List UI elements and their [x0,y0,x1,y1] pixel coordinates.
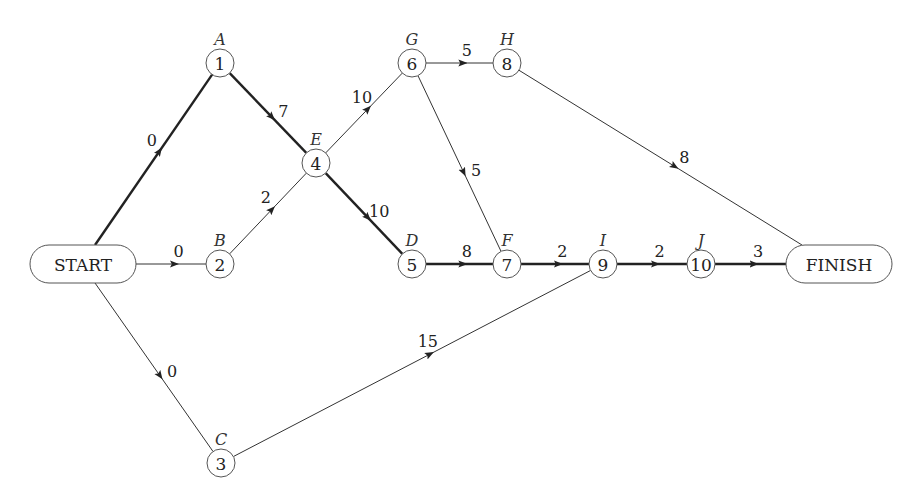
node-5: 5D [398,231,426,278]
edge-weight-label: 10 [352,88,372,107]
node-6: 6G [398,30,426,77]
edge-weight-label: 7 [278,102,288,121]
edge-weight-label: 2 [654,242,664,261]
node-1: 1A [206,30,234,77]
node-number: 10 [690,255,712,275]
edge-start-2: 0 [136,242,206,264]
start-terminal: START [30,245,136,283]
edge-weight-label: 8 [462,242,472,261]
edge-4-5: 10 [326,173,403,254]
edge-10-finish: 3 [715,242,786,264]
edge-5-7: 8 [426,242,493,264]
node-number: 7 [502,255,513,275]
edge-weight-label: 8 [679,148,689,167]
edge-weight-label: 5 [462,41,472,60]
edge-7-9: 2 [521,242,589,264]
edge-weight-label: 5 [471,161,481,180]
edge-weight-label: 0 [147,131,157,150]
activity-label: H [499,30,515,49]
edge-start-1: 0 [95,75,212,245]
activity-label: A [212,30,226,49]
activity-label: F [500,231,513,250]
edge-2-4: 2 [230,173,307,254]
edge-weight-label: 3 [753,242,763,261]
activity-label: I [599,231,607,250]
activity-label: C [215,430,227,449]
node-number: 8 [502,54,513,74]
node-number: 6 [407,54,418,74]
edge-start-3: 0 [95,283,213,451]
node-8: 8H [493,30,521,77]
node-number: 3 [216,454,227,474]
edge-6-8: 5 [426,41,493,63]
node-4: 4E [302,130,330,177]
edge-8-finish: 8 [519,70,802,245]
edge-weight-label: 2 [557,242,567,261]
node-7: 7F [493,231,521,278]
edge-weight-label: 0 [167,362,177,381]
edge-3-9: 15 [233,270,590,456]
edge-weight-label: 2 [261,188,271,207]
node-3: 3C [207,430,235,477]
node-number: 9 [598,255,609,275]
edge-6-7: 5 [418,76,501,252]
edge-weight-label: 10 [369,202,389,221]
activity-label: D [405,231,419,250]
node-number: 1 [215,54,226,74]
start-label: START [54,255,113,275]
activity-label: B [213,231,226,250]
activity-label: J [695,231,706,250]
node-10: 10J [687,231,715,278]
edge-weight-label: 15 [418,332,438,351]
network-diagram: 000721010558821523 STARTFINISH1A2B3C4E5D… [0,0,914,503]
node-number: 5 [407,255,418,275]
edge-weight-label: 0 [173,242,183,261]
node-2: 2B [206,231,234,278]
finish-label: FINISH [806,255,873,275]
edge-4-6: 10 [326,73,403,153]
node-9: 9I [589,231,617,278]
edge-9-10: 2 [617,242,687,264]
node-number: 2 [215,255,226,275]
activity-label: E [309,130,322,149]
edge-1-4: 7 [230,73,307,153]
edges-layer: 000721010558821523 [95,41,802,457]
finish-terminal: FINISH [786,245,892,283]
activity-label: G [406,30,419,49]
node-number: 4 [311,154,322,174]
